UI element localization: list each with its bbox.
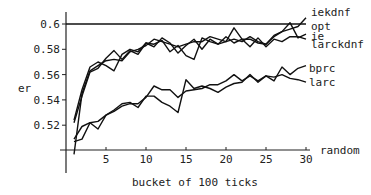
x-tick-label: 15 (179, 153, 192, 166)
y-tick-label: 0.56 (34, 69, 61, 82)
x-tick-label: 10 (139, 153, 152, 166)
x-axis-title: bucket of 100 ticks (132, 176, 258, 189)
line-chart: 0.520.540.560.580.6 51015202530 er bucke… (0, 0, 371, 195)
series-line-larc (74, 75, 306, 142)
legend-label-bprc: bprc (309, 62, 336, 75)
random-annotation: random (320, 144, 360, 157)
legend-label-iekdnf: iekdnf (311, 6, 351, 19)
y-tick-label: 0.54 (34, 94, 61, 107)
series-lines (66, 18, 306, 155)
x-tick-label: 20 (219, 153, 232, 166)
x-tick-label: 5 (103, 153, 110, 166)
y-tick-label: 0.58 (34, 43, 61, 56)
series-line-ie (74, 23, 306, 123)
x-tick-label: 30 (299, 153, 312, 166)
y-ticks: 0.520.540.560.580.6 (34, 18, 67, 132)
legend-label-larckdnf: larckdnf (311, 38, 364, 51)
y-tick-label: 0.6 (40, 18, 60, 31)
y-tick-label: 0.52 (34, 119, 61, 132)
y-axis-title: er (18, 82, 32, 95)
legend-label-larc: larc (309, 76, 336, 89)
x-tick-label: 25 (259, 153, 272, 166)
